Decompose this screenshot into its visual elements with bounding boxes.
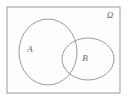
set-a-label: A bbox=[26, 44, 33, 54]
venn-diagram-canvas: Ω A B bbox=[0, 0, 128, 102]
venn-diagram-figure: Ω A B bbox=[0, 0, 128, 102]
set-b-label: B bbox=[82, 53, 88, 63]
universal-set-label: Ω bbox=[107, 10, 114, 20]
